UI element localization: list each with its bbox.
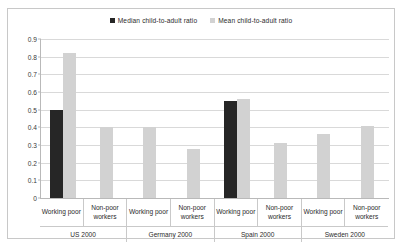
x-axis-category-label: Working poor [40, 199, 84, 226]
bar-group [172, 39, 216, 198]
x-axis-category-label: Working poor [215, 199, 259, 226]
bar-mean [63, 53, 76, 198]
y-axis-tick-label: 0.6 [28, 89, 37, 96]
bar-mean [274, 143, 287, 198]
bar-mean [143, 127, 156, 198]
bar-mean [317, 134, 330, 198]
y-axis-tick-label: 0.9 [28, 36, 37, 43]
chart-legend: Median child-to-adult ratio Mean child-t… [8, 17, 394, 24]
x-axis-group-label: US 2000 [40, 227, 127, 242]
y-axis-tick-label: 0.3 [28, 142, 37, 149]
y-axis-tick-label: 0.7 [28, 71, 37, 78]
legend-entry-mean: Mean child-to-adult ratio [210, 17, 292, 24]
x-axis-group-label: Spain 2000 [215, 227, 302, 242]
x-axis-category-label: Non-poor workers [345, 199, 388, 226]
x-axis-group-label: Sweden 2000 [302, 227, 388, 242]
bar-median [50, 110, 63, 198]
bar-group [128, 39, 172, 198]
y-axis-tick-label: 0.4 [28, 124, 37, 131]
x-axis-labels: Working poorNon-poor workersWorking poor… [40, 199, 388, 241]
bar-mean [100, 127, 113, 198]
bar-group [215, 39, 259, 198]
bar-mean [361, 126, 374, 198]
legend-label-median: Median child-to-adult ratio [118, 17, 197, 24]
y-axis-tick-label: 0.2 [28, 159, 37, 166]
bar-group [259, 39, 303, 198]
bar-group [41, 39, 85, 198]
y-axis-tick-label: 0.5 [28, 106, 37, 113]
bar-mean [237, 99, 250, 198]
x-axis-category-label: Non-poor workers [171, 199, 215, 226]
bar-mean [187, 149, 200, 198]
bar-group [85, 39, 129, 198]
x-axis-group-label: Germany 2000 [127, 227, 214, 242]
x-axis-group-row: US 2000Germany 2000Spain 2000Sweden 2000 [40, 226, 388, 242]
x-axis-category-label: Non-poor workers [84, 199, 128, 226]
y-axis-tick-label: 0.8 [28, 53, 37, 60]
y-axis-tick-label: 0 [33, 195, 37, 202]
bars-layer [41, 39, 389, 198]
x-axis-category-label: Working poor [127, 199, 171, 226]
chart-frame: Median child-to-adult ratio Mean child-t… [7, 8, 395, 239]
bar-group [302, 39, 346, 198]
legend-swatch-median [110, 18, 115, 23]
x-axis-category-label: Non-poor workers [258, 199, 302, 226]
legend-swatch-mean [210, 18, 215, 23]
legend-entry-median: Median child-to-adult ratio [110, 17, 197, 24]
bar-median [224, 101, 237, 198]
plot-area: 0.90.80.70.60.50.40.30.20.10 [40, 39, 389, 199]
legend-label-mean: Mean child-to-adult ratio [218, 17, 292, 24]
y-axis-tick-label: 0.1 [28, 177, 37, 184]
x-axis-category-label: Working poor [302, 199, 346, 226]
x-axis-category-row: Working poorNon-poor workersWorking poor… [40, 199, 388, 226]
bar-group [346, 39, 390, 198]
